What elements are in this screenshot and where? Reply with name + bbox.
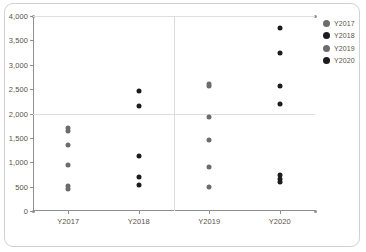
y-tick-mark (30, 16, 33, 17)
y-tick-label: 2,000 (9, 109, 28, 118)
x-tick-label: Y2020 (269, 217, 291, 226)
x-tick-mark (68, 211, 69, 214)
y-tick-label: 1,000 (9, 158, 28, 167)
data-point[interactable] (66, 163, 71, 168)
y-tick-mark (30, 187, 33, 188)
y-tick-mark (30, 162, 33, 163)
data-point[interactable] (277, 101, 282, 106)
x-tick-label: Y2017 (57, 217, 79, 226)
x-tick-label: Y2019 (198, 217, 220, 226)
y-tick-label: 3,500 (9, 36, 28, 45)
data-point[interactable] (136, 88, 141, 93)
legend-label: Y2017 (334, 20, 355, 27)
axis-endpoint (314, 210, 317, 213)
data-point[interactable] (277, 179, 282, 184)
data-point[interactable] (207, 115, 212, 120)
data-point[interactable] (66, 142, 71, 147)
data-point[interactable] (66, 128, 71, 133)
data-point[interactable] (207, 165, 212, 170)
legend-marker-icon (323, 32, 330, 39)
legend-label: Y2020 (334, 57, 355, 64)
y-tick-label: 1,500 (9, 133, 28, 142)
y-tick-mark (30, 40, 33, 41)
legend-item-y2018[interactable]: Y2018 (323, 30, 361, 43)
y-tick-mark (30, 138, 33, 139)
legend-item-y2020[interactable]: Y2020 (323, 55, 361, 68)
y-tick-label: 4,000 (9, 12, 28, 21)
x-tick-mark (209, 211, 210, 214)
data-point[interactable] (136, 104, 141, 109)
legend-label: Y2018 (334, 32, 355, 39)
data-point[interactable] (136, 154, 141, 159)
legend-item-y2017[interactable]: Y2017 (323, 17, 361, 30)
data-point[interactable] (136, 183, 141, 188)
scatter-plot-area: 05001,0001,5002,0002,5003,0003,5004,000 … (33, 16, 315, 211)
x-tick-mark (139, 211, 140, 214)
y-tick-mark (30, 114, 33, 115)
x-tick-mark (280, 211, 281, 214)
data-point[interactable] (136, 174, 141, 179)
legend-marker-icon (323, 57, 330, 64)
y-tick-label: 500 (15, 182, 28, 191)
legend-marker-icon (323, 45, 330, 52)
panel-divider (174, 16, 175, 211)
data-point[interactable] (207, 137, 212, 142)
y-tick-mark (30, 65, 33, 66)
y-tick-label: 0 (24, 207, 28, 216)
y-tick-mark (30, 211, 33, 212)
y-tick-label: 2,500 (9, 85, 28, 94)
y-tick-label: 3,000 (9, 60, 28, 69)
chart-card: 05001,0001,5002,0002,5003,0003,5004,000 … (4, 3, 360, 247)
data-point[interactable] (277, 51, 282, 56)
data-point[interactable] (207, 184, 212, 189)
chart-legend: Y2017Y2018Y2019Y2020 (323, 17, 361, 67)
legend-item-y2019[interactable]: Y2019 (323, 42, 361, 55)
legend-marker-icon (323, 20, 330, 27)
data-point[interactable] (277, 25, 282, 30)
legend-label: Y2019 (334, 45, 355, 52)
data-point[interactable] (66, 186, 71, 191)
data-point[interactable] (277, 84, 282, 89)
data-point[interactable] (207, 83, 212, 88)
x-tick-label: Y2018 (128, 217, 150, 226)
y-tick-mark (30, 89, 33, 90)
